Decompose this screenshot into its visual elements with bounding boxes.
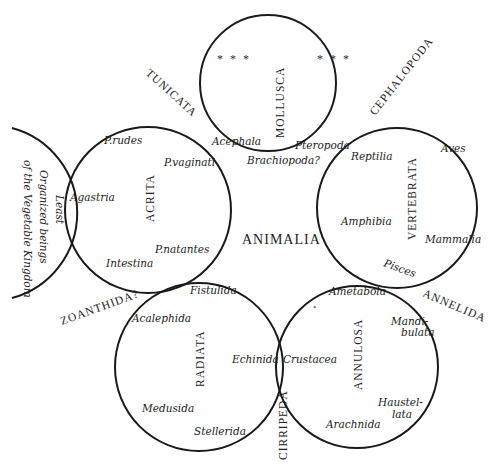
acrita-member: Agastria xyxy=(69,191,115,203)
radiata-member: Echinida xyxy=(231,353,279,365)
vertebrata-member: Amphibia xyxy=(340,215,392,227)
vertebrata-member: Reptilia xyxy=(350,150,392,162)
osculant-annelida: ANNELIDA xyxy=(421,287,488,324)
mollusca-member: Acephala xyxy=(211,135,261,147)
annulosa-member: Ametabola xyxy=(328,285,386,297)
osculant-cephalopoda: CEPHALOPODA xyxy=(367,35,435,118)
osculant-cirripeda: CIRRIPEDA xyxy=(277,390,289,460)
radiata-member: Fistulida xyxy=(189,284,237,296)
annulosa-member: Haustel- xyxy=(377,396,423,408)
vertebrata-member: Mammalia xyxy=(424,233,481,245)
quinarian-diagram: ANIMALIA * * * * * * MOLLUSCA Acephala P… xyxy=(0,0,504,473)
acrita-member: P.rudes xyxy=(103,134,143,146)
vegetable-line: Least xyxy=(54,194,66,225)
radiata-label: RADIATA xyxy=(194,330,206,387)
radiata-member: Acalephida xyxy=(131,312,191,324)
vertebrata-member: Aves xyxy=(440,142,466,154)
mollusca-label: MOLLUSCA xyxy=(274,67,286,138)
mollusca-member-brachiopoda: Brachiopoda? xyxy=(246,154,320,166)
acrita-member: P.natantes xyxy=(154,243,210,255)
annulosa-member: Crustacea xyxy=(283,353,337,365)
annulosa-member: bulata xyxy=(401,326,435,338)
osculant-tunicata: TUNICATA xyxy=(144,67,200,119)
acrita-member: P.vaginati xyxy=(163,156,215,168)
vertebrata-member: Pisces xyxy=(381,256,418,279)
animalia-title: ANIMALIA xyxy=(242,232,321,247)
vertebrata-label: VERTEBRATA xyxy=(406,157,418,240)
vegetable-line: of the Vegetable Kingdom xyxy=(22,160,34,298)
mollusca-ellipsis-right: * * * xyxy=(317,52,351,66)
annulosa-member: Arachnida xyxy=(325,418,381,430)
radiata-member: Stellerida xyxy=(194,425,246,437)
acrita-member: Intestina xyxy=(105,257,153,269)
annulosa-mark: ° xyxy=(313,305,317,313)
radiata-member: Medusida xyxy=(141,402,194,414)
annulosa-label: ANNULOSA xyxy=(352,319,364,390)
mollusca-member: Pteropoda xyxy=(294,139,350,151)
vegetable-line: Organized beings xyxy=(38,170,50,264)
mollusca-circle xyxy=(200,15,336,151)
mollusca-ellipsis-left: * * * xyxy=(217,52,251,66)
annulosa-member: lata xyxy=(392,408,412,420)
acrita-label: ACRITA xyxy=(144,174,156,222)
